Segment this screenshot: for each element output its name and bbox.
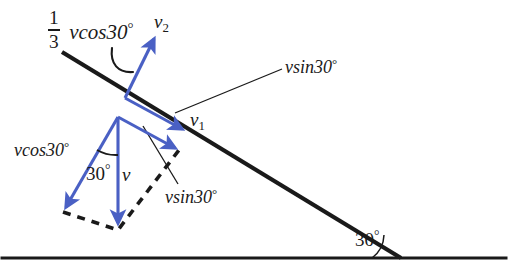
fraction-denominator: 3 (48, 32, 60, 52)
label-v2: v2 (154, 12, 169, 35)
physics-diagram: 1 3 vcos30° v2 vsin30° v1 vcos30° 30° v … (0, 0, 508, 278)
angle-30-value: 30 (86, 163, 105, 184)
degree-symbol-6: ° (374, 228, 379, 243)
label-angle-30: 30° (86, 163, 110, 183)
label-coefficient-vcos30: 1 3 vcos30° (48, 8, 134, 52)
vcos30-top-value: vcos30 (69, 20, 127, 44)
degree-symbol-3: ° (64, 139, 69, 154)
v1-subscript: 1 (198, 118, 204, 133)
label-vsin30-mid: vsin30° (165, 188, 217, 206)
degree-symbol-4: ° (105, 162, 110, 177)
dashed-parallelogram (63, 150, 179, 230)
degree-symbol-5: ° (212, 186, 217, 201)
angle-30-arc (97, 150, 118, 155)
label-vsin30-top: vsin30° (285, 58, 337, 76)
degree-symbol-1: ° (127, 20, 133, 36)
label-vcos30-top-text: vcos30° (65, 20, 134, 44)
vsin30-top-value: vsin30 (285, 57, 332, 77)
fraction-one-third: 1 3 (48, 8, 60, 52)
v2-subscript: 2 (162, 20, 168, 35)
label-v-main: v (122, 165, 130, 184)
vsin30-mid-value: vsin30 (165, 187, 212, 207)
label-v1: v1 (190, 110, 205, 133)
label-vcos30-left: vcos30° (14, 141, 69, 159)
vcos30-left-value: vcos30 (14, 140, 64, 160)
label-incline-angle: 30° (355, 229, 379, 249)
fraction-numerator: 1 (48, 8, 60, 28)
vsin30-top-leader-line (175, 69, 282, 113)
degree-symbol-2: ° (332, 56, 337, 71)
incline-angle-value: 30 (355, 229, 374, 250)
